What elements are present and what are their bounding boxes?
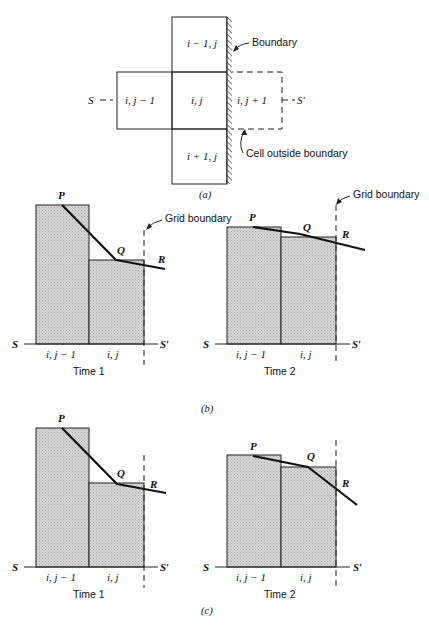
arrowhead-icon [233, 45, 239, 52]
label-cell-i-j-1: i, j − 1 [46, 348, 76, 360]
label-grid-boundary: Grid boundary [165, 212, 232, 224]
label-cell-outside-boundary: Cell outside boundary [246, 147, 348, 159]
time-label: Time 2 [264, 365, 296, 377]
panel-a: i − 1, j i, j − 1 i, j i, j + 1 i + 1, j… [88, 17, 348, 201]
panel-c-time2: P Q R S S′ i, j − 1 i, j Time 2 [203, 440, 362, 600]
bar-cell-i-j [89, 260, 144, 344]
point-q: Q [303, 221, 311, 233]
label-cell-i-j-1: i, j − 1 [236, 348, 266, 360]
panel-c-time1: P Q R S S′ i, j − 1 i, j Time 1 [12, 412, 169, 600]
point-r: R [341, 477, 349, 489]
panel-b-time2: P Q R S S′ i, j − 1 i, j Time 2 Grid bou… [203, 188, 420, 377]
label-s-prime: S′ [353, 561, 362, 573]
point-q: Q [117, 467, 125, 479]
bar-cell-i-j [89, 483, 144, 567]
label-cell-outside: i, j + 1 [237, 94, 267, 106]
panel-b-time1: P Q R S S′ i, j − 1 i, j Time 1 Grid bou… [12, 189, 232, 377]
label-cell-bottom: i + 1, j [187, 150, 217, 162]
point-q: Q [117, 244, 125, 256]
label-boundary: Boundary [252, 36, 298, 48]
point-p: P [249, 211, 256, 223]
point-p: P [58, 412, 65, 424]
label-grid-boundary: Grid boundary [353, 188, 420, 200]
label-s: S [203, 338, 209, 350]
bar-cell-i-j-1 [227, 455, 281, 567]
caption-c: (c) [201, 605, 213, 617]
arrowhead-icon [336, 198, 342, 205]
label-cell-i-j-1: i, j − 1 [236, 571, 266, 583]
bar-cell-i-j [281, 237, 336, 344]
label-cell-i-j: i, j [107, 571, 119, 583]
bar-cell-i-j-1 [227, 227, 281, 344]
label-s-prime: S′ [297, 94, 306, 106]
figure: i − 1, j i, j − 1 i, j i, j + 1 i + 1, j… [0, 0, 429, 627]
label-s-prime: S′ [352, 338, 361, 350]
point-p: P [250, 440, 257, 452]
point-r: R [157, 253, 165, 265]
caption-b: (b) [201, 403, 214, 415]
point-p: P [58, 189, 65, 201]
caption-a: (a) [199, 189, 212, 201]
point-r: R [149, 478, 157, 490]
time-label: Time 2 [264, 588, 296, 600]
label-s-prime: S′ [160, 561, 169, 573]
label-cell-i-j: i, j [107, 348, 119, 360]
label-cell-i-j-1: i, j − 1 [46, 571, 76, 583]
label-s: S [12, 338, 18, 350]
label-s: S [12, 561, 18, 573]
point-q: Q [307, 450, 315, 462]
label-s: S [203, 561, 209, 573]
label-cell-center: i, j [191, 94, 203, 106]
time-label: Time 1 [73, 365, 105, 377]
arrowhead-icon [241, 129, 247, 135]
time-label: Time 1 [73, 588, 105, 600]
label-cell-top: i − 1, j [187, 37, 217, 49]
label-cell-i-j: i, j [300, 571, 312, 583]
boundary-hatch [227, 17, 232, 184]
point-r: R [341, 228, 349, 240]
label-s-prime: S′ [160, 338, 169, 350]
label-s: S [88, 94, 94, 106]
label-cell-left: i, j − 1 [125, 94, 155, 106]
label-cell-i-j: i, j [300, 348, 312, 360]
